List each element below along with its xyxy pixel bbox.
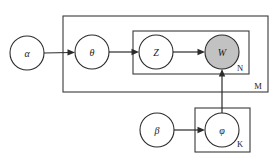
edge-beta-to-phi — [174, 127, 205, 133]
node-phi: φ — [205, 113, 239, 147]
edge-phi-to-w — [219, 69, 225, 113]
beta-label: β — [154, 125, 160, 136]
theta-label: θ — [90, 47, 95, 58]
plate-diagram-canvas: M N K — [0, 0, 278, 166]
phi-label: φ — [219, 125, 225, 136]
edge-theta-to-z — [109, 49, 139, 55]
lda-plate-diagram: M N K — [0, 0, 278, 166]
plate-n-label: N — [237, 63, 243, 73]
plate-k-label: K — [237, 139, 244, 149]
alpha-label: α — [24, 48, 30, 59]
edge-alpha-to-theta — [44, 49, 75, 55]
node-alpha: α — [10, 36, 44, 70]
plate-m-label: M — [254, 81, 262, 91]
node-theta: θ — [75, 35, 109, 69]
node-w: W — [205, 35, 239, 69]
z-label: Z — [153, 47, 159, 58]
edge-z-to-w — [173, 49, 205, 55]
node-beta: β — [140, 113, 174, 147]
node-z: Z — [139, 35, 173, 69]
